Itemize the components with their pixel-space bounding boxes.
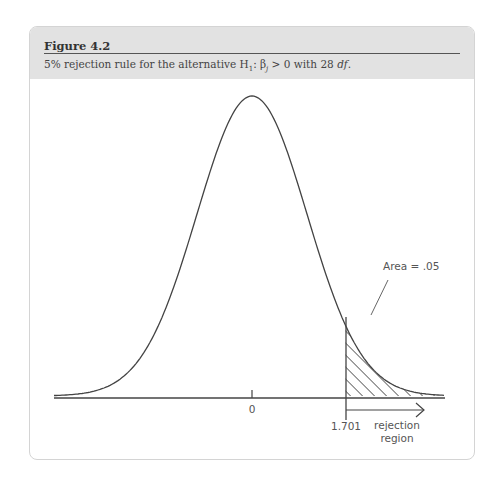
rejection-label-line1: rejection [374, 419, 420, 431]
rejection-label-line2: region [380, 432, 413, 444]
area-leader-line [371, 280, 388, 315]
zero-label: 0 [249, 403, 256, 415]
critical-value-label: 1.701 [331, 420, 361, 432]
figure-panel: Figure 4.2 5% rejection rule for the alt… [29, 26, 475, 460]
rejection-hatch [226, 307, 475, 407]
t-distribution-chart: 0 1.701 rejection region Area = .05 [30, 27, 475, 460]
density-curve [54, 96, 444, 396]
area-annotation: Area = .05 [383, 260, 439, 272]
